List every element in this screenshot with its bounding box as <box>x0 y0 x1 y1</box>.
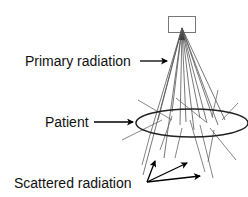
scattered-radiation-arrows-icon <box>147 161 200 182</box>
primary-beam-lines <box>143 27 225 175</box>
scattered-radiation-label: Scattered radiation <box>14 175 132 191</box>
scattered-radiation-lines <box>122 90 238 178</box>
radiation-scatter-diagram: Primary radiation Patient Scattered radi… <box>0 0 248 197</box>
primary-radiation-label: Primary radiation <box>25 53 131 69</box>
patient-label: Patient <box>45 114 89 130</box>
